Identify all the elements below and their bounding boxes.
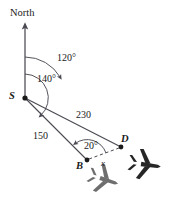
angle-label-120: 120° [57,53,76,63]
distance-label-bd: x [101,159,105,168]
airplane-icon-d [126,147,162,182]
distance-label-sd: 230 [76,110,91,120]
point-label-s: S [9,91,15,102]
north-label: North [10,8,35,19]
point-b-dot [85,158,90,163]
angle-label-20: 20° [84,141,98,151]
point-label-d: D [121,134,129,145]
angle-label-140: 140° [37,74,56,84]
point-d-dot [119,145,124,150]
point-label-b: B [76,161,83,172]
diagram-canvas [0,0,169,205]
point-s-dot [22,95,27,100]
bearing-diagram-figure: North 120° 140° 20° S B D 230 150 x [0,0,169,205]
distance-label-sb: 150 [33,131,48,141]
segment-s-to-b [25,98,87,160]
